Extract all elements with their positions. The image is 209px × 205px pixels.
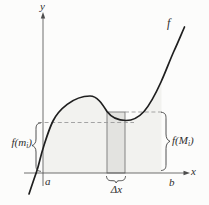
strip-rectangle [107,112,125,173]
delta-x-label: Δx [104,183,129,195]
curve-f-label: f [167,17,170,29]
f-m-label-suffix: ) [28,136,32,148]
f-M-brace [162,112,171,170]
y-axis-label: y [40,0,45,12]
y-axis-arrowhead [41,12,45,19]
f-m-label: f(mi) [2,136,32,148]
interval-a-label: a [45,175,51,187]
f-M-label: f(Mi) [172,134,194,146]
x-axis-label: x [191,165,196,177]
x-axis-arrowhead [184,171,191,175]
interval-b-label: b [169,176,175,188]
region-under-curve [44,81,162,173]
f-M-label-suffix: ) [190,134,194,146]
f-m-label-prefix: f(m [12,136,27,148]
figure-canvas [0,0,209,205]
calculus-area-figure: y x f a b f(mi) f(Mi) Δx [0,0,209,205]
f-M-label-prefix: f(M [172,134,188,146]
